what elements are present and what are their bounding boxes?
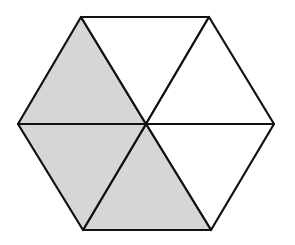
- hexagon-diagram: [0, 0, 295, 245]
